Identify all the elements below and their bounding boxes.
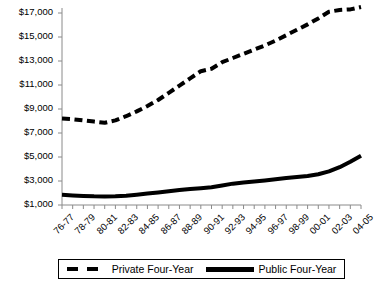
legend-label-public: Public Four-Year bbox=[259, 264, 337, 275]
y-axis-tick-label: $17,000 bbox=[0, 7, 53, 17]
legend-item-private: Private Four-Year bbox=[67, 264, 194, 275]
y-axis-tick-label: $15,000 bbox=[0, 31, 53, 41]
legend-item-public: Public Four-Year bbox=[206, 264, 337, 275]
dashed-line-swatch-icon bbox=[67, 267, 107, 271]
solid-line-swatch-icon bbox=[206, 267, 254, 272]
y-axis-tick-label: $7,000 bbox=[0, 127, 53, 137]
legend-label-private: Private Four-Year bbox=[112, 264, 194, 275]
data-series-group bbox=[62, 7, 361, 197]
series-line-public-four-year bbox=[62, 156, 361, 197]
chart-legend: Private Four-Year Public Four-Year bbox=[58, 259, 345, 279]
y-axis-tick-label: $9,000 bbox=[0, 103, 53, 113]
y-axis-tick-label: $11,000 bbox=[0, 79, 53, 89]
y-axis-tick-label: $5,000 bbox=[0, 151, 53, 161]
series-line-private-four-year bbox=[62, 7, 361, 123]
x-axis-ticks bbox=[62, 205, 361, 209]
y-axis-ticks bbox=[58, 13, 62, 205]
y-axis-tick-label: $13,000 bbox=[0, 55, 53, 65]
y-axis-tick-label: $3,000 bbox=[0, 175, 53, 185]
y-axis-tick-label: $1,000 bbox=[0, 199, 53, 209]
